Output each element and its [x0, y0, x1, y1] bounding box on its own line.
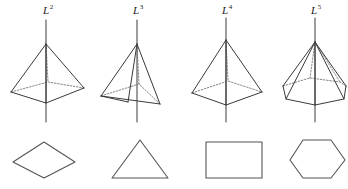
front-base-edges-1	[11, 88, 84, 103]
pyramid-group-1	[11, 20, 84, 122]
apex-edge-1-right	[46, 44, 84, 88]
pyramid-group-4	[283, 18, 346, 122]
axis-label-1: L2	[43, 4, 53, 16]
axis-label-4: L5	[311, 4, 321, 16]
front-base-edge-2	[101, 96, 160, 104]
apex-edge-4-left	[283, 42, 315, 86]
base-polygon-rhombus	[13, 142, 75, 178]
axis-label-4-exponent: 5	[318, 3, 322, 11]
axis-label-3: L4	[222, 4, 232, 16]
axis-label-2: L3	[133, 4, 143, 16]
apex-edge-3-right	[226, 40, 262, 92]
axis-label-1-exponent: 2	[50, 3, 54, 11]
hidden-base-edges-3	[192, 81, 262, 93]
apex-edge-2-front	[128, 44, 137, 102]
symmetry-axes-figure: L2 L3 L4 L5	[0, 0, 348, 189]
apex-edge-1-left	[11, 44, 46, 92]
pyramid-group-2	[101, 20, 160, 122]
axis-label-3-base: L	[222, 4, 228, 16]
apex-edge-3-left	[192, 40, 226, 93]
base-polygon-hexagon	[290, 140, 345, 178]
axis-label-4-base: L	[311, 4, 317, 16]
base-polygon-triangle	[112, 140, 168, 178]
apex-edge-2-right	[137, 44, 160, 104]
axis-label-2-base: L	[133, 4, 139, 16]
front-base-edges-3	[192, 92, 262, 105]
apex-edge-4-right	[315, 42, 346, 86]
base-polygon-square	[206, 142, 262, 178]
axis-label-3-exponent: 4	[229, 3, 233, 11]
axis-label-1-base: L	[43, 4, 49, 16]
figure-canvas	[0, 0, 348, 189]
pyramid-group-3	[192, 18, 262, 122]
hidden-base-edges-1	[11, 82, 84, 92]
axis-label-2-exponent: 3	[140, 3, 144, 11]
apex-edge-4-rightfront	[315, 42, 344, 99]
apex-edge-2-left	[101, 44, 137, 96]
